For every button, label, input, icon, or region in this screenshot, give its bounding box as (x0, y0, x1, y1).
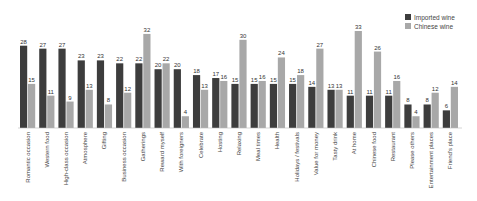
bar-chinese-wine-value-for-money (316, 49, 323, 128)
value-label-imported-wine-meal-times: 15 (251, 77, 258, 83)
value-label-chinese-wine-hosting: 16 (220, 74, 227, 80)
bar-chinese-wine-atmosphere (86, 90, 93, 128)
bar-imported-wine-entertainment-places (424, 104, 431, 128)
legend-swatch-chinese-wine (405, 23, 411, 29)
value-label-chinese-wine-friend-s-place: 14 (451, 80, 458, 86)
bar-chinese-wine-relaxing (239, 40, 246, 128)
bar-imported-wine-at-home (347, 96, 354, 128)
bar-chinese-wine-holidays-festivals (297, 75, 304, 128)
value-label-chinese-wine-romantic-occasion: 15 (28, 77, 35, 83)
value-label-chinese-wine-gatherings: 32 (144, 27, 151, 33)
value-label-chinese-wine-at-home: 33 (355, 24, 362, 30)
category-label-tasty-drink: Tasty drink (332, 131, 338, 161)
bar-imported-wine-please-others (404, 104, 411, 128)
value-label-imported-wine-relaxing: 15 (232, 77, 239, 83)
bar-imported-wine-gatherings (135, 63, 142, 128)
bar-imported-wine-friend-s-place (443, 110, 450, 128)
category-label-reward-myself: Reward myself (159, 132, 165, 172)
value-label-imported-wine-please-others: 8 (406, 97, 410, 103)
value-label-imported-wine-gatherings: 22 (136, 56, 143, 62)
legend: Imported wine Chinese wine (405, 14, 455, 30)
bar-chinese-wine-hosting (220, 81, 227, 128)
category-label-celebrate: Celebrate (198, 131, 204, 158)
bar-imported-wine-celebrate (193, 75, 200, 128)
bar-imported-wine-romantic-occasion (20, 46, 27, 128)
category-label-chinese-food: Chinese food (371, 132, 377, 167)
value-label-imported-wine-at-home: 11 (347, 89, 354, 95)
category-label-hosting: Hosting (217, 132, 223, 152)
category-label-restaurant: Restaurant (390, 132, 396, 162)
category-label-romantic-occasion: Romantic occasion (25, 132, 31, 183)
value-label-imported-wine-business-occasion: 22 (116, 56, 123, 62)
bar-chart: 2815271127923132382212223220222041813171… (0, 0, 477, 201)
category-label-gifting: Gifting (101, 132, 107, 149)
category-label-at-home: At home (351, 131, 357, 154)
bar-chinese-wine-romantic-occasion (28, 84, 35, 128)
legend-label-imported-wine: Imported wine (414, 14, 455, 22)
value-label-chinese-wine-celebrate: 13 (201, 83, 208, 89)
legend-label-chinese-wine: Chinese wine (414, 23, 453, 30)
bar-chinese-wine-gifting (105, 104, 112, 128)
category-label-high-class-occasion: High-class occasion (63, 132, 69, 185)
bar-imported-wine-western-food (39, 49, 46, 128)
value-label-chinese-wine-relaxing: 30 (240, 33, 247, 39)
bar-chinese-wine-business-occasion (124, 93, 131, 128)
bar-imported-wine-meal-times (251, 84, 258, 128)
value-label-imported-wine-western-food: 27 (39, 42, 46, 48)
bar-chinese-wine-please-others (412, 116, 419, 128)
value-label-chinese-wine-gifting: 8 (107, 97, 111, 103)
value-label-chinese-wine-restaurant: 16 (393, 74, 400, 80)
value-label-imported-wine-gifting: 23 (97, 53, 104, 59)
bar-chinese-wine-western-food (47, 96, 54, 128)
bar-chinese-wine-gatherings (143, 34, 150, 128)
bar-imported-wine-chinese-food (366, 96, 373, 128)
value-label-imported-wine-celebrate: 18 (193, 68, 200, 74)
category-label-value-for-money: Value for money (313, 132, 319, 175)
value-label-imported-wine-with-foreigners: 20 (174, 62, 181, 68)
category-label-friend-s-place: Friend's place (447, 131, 453, 169)
category-label-western-food: Western food (44, 132, 50, 168)
value-label-imported-wine-tasty-drink: 13 (328, 83, 335, 89)
bar-chinese-wine-restaurant (393, 81, 400, 128)
value-label-chinese-wine-tasty-drink: 13 (336, 83, 343, 89)
value-label-chinese-wine-please-others: 4 (414, 109, 418, 115)
bar-imported-wine-gifting (97, 60, 104, 128)
value-label-chinese-wine-business-occasion: 12 (124, 86, 131, 92)
value-label-imported-wine-reward-myself: 20 (155, 62, 162, 68)
value-label-imported-wine-romantic-occasion: 28 (20, 39, 27, 45)
value-label-chinese-wine-with-foreigners: 4 (184, 109, 188, 115)
bar-imported-wine-with-foreigners (174, 69, 181, 128)
value-label-chinese-wine-holidays-festivals: 18 (297, 68, 304, 74)
bar-chinese-wine-celebrate (201, 90, 208, 128)
category-label-entertainment-places: Entertainment places (428, 132, 434, 188)
bar-chinese-wine-friend-s-place (451, 87, 458, 128)
bar-imported-wine-holidays-festivals (289, 84, 296, 128)
value-label-chinese-wine-western-food: 11 (48, 89, 55, 95)
bar-imported-wine-reward-myself (155, 69, 162, 128)
bar-chinese-wine-reward-myself (163, 63, 170, 128)
value-label-imported-wine-holidays-festivals: 15 (289, 77, 296, 83)
legend-swatch-imported-wine (405, 14, 411, 20)
bar-chinese-wine-tasty-drink (335, 90, 342, 128)
value-label-imported-wine-chinese-food: 11 (366, 89, 373, 95)
value-label-imported-wine-health: 15 (270, 77, 277, 83)
bar-imported-wine-tasty-drink (327, 90, 334, 128)
value-label-chinese-wine-value-for-money: 27 (317, 42, 324, 48)
value-label-imported-wine-entertainment-places: 8 (425, 97, 429, 103)
value-label-chinese-wine-reward-myself: 22 (163, 56, 170, 62)
category-label-business-occasion: Business occasion (121, 132, 127, 182)
bars-layer (20, 31, 458, 128)
value-label-chinese-wine-atmosphere: 13 (86, 83, 93, 89)
bar-chinese-wine-health (278, 57, 285, 128)
category-labels-layer: Romantic occasionWestern foodHigh-class … (25, 131, 454, 188)
category-label-gatherings: Gatherings (140, 132, 146, 161)
bar-imported-wine-value-for-money (308, 87, 315, 128)
value-label-imported-wine-atmosphere: 23 (78, 53, 85, 59)
bar-imported-wine-hosting (212, 78, 219, 128)
value-label-imported-wine-value-for-money: 14 (309, 80, 316, 86)
value-label-imported-wine-friend-s-place: 6 (445, 103, 449, 109)
bar-chinese-wine-at-home (355, 31, 362, 128)
category-label-atmosphere: Atmosphere (82, 131, 88, 164)
bar-chinese-wine-entertainment-places (432, 93, 439, 128)
bar-chinese-wine-with-foreigners (182, 116, 189, 128)
